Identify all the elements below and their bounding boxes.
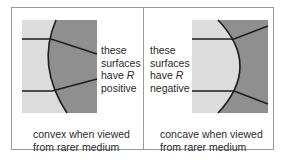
convex-caption: convex when viewed from rarer medium [33, 128, 130, 153]
caption-line: convex when viewed [33, 128, 130, 141]
concave-caption: concave when viewed from rarer medium [160, 128, 263, 153]
concave-label: these surfaces have R negative [150, 44, 190, 94]
label-line: surfaces [101, 57, 141, 70]
radius-symbol: R [176, 69, 184, 81]
label-line: have R [101, 69, 141, 82]
label-line: surfaces [150, 57, 190, 70]
convex-panel-drawing [22, 20, 97, 113]
radius-symbol: R [127, 69, 135, 81]
convex-label: these surfaces have R positive [101, 44, 141, 94]
caption-line: concave when viewed [160, 128, 263, 141]
label-text: have [101, 69, 127, 81]
caption-line: from rarer medium [160, 141, 263, 154]
label-line: these [150, 44, 190, 57]
label-text: have [150, 69, 176, 81]
label-line: have R [150, 69, 190, 82]
label-line: positive [101, 82, 141, 95]
caption-line: from rarer medium [33, 141, 130, 154]
concave-panel-drawing [192, 20, 268, 113]
label-line: negative [150, 82, 190, 95]
label-line: these [101, 44, 141, 57]
